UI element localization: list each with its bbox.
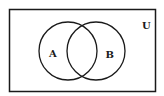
set-b-circle xyxy=(67,22,125,80)
set-b-label: B xyxy=(106,49,114,60)
set-a-circle xyxy=(39,22,97,80)
set-a-label: A xyxy=(48,48,57,59)
venn-diagram: U A B xyxy=(0,0,164,96)
universe-label: U xyxy=(142,20,151,31)
universe-rectangle xyxy=(10,10,156,92)
